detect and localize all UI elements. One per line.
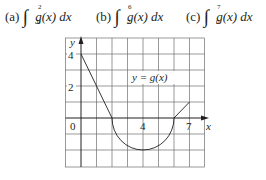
y-axis-label: y <box>69 36 75 48</box>
x-axis-label: x <box>205 120 211 132</box>
y-tick-2: 2 <box>68 81 74 93</box>
curve-label: y = g(x) <box>131 71 168 84</box>
y-axis-arrow-icon <box>79 36 84 44</box>
x-tick-0: 0 <box>70 120 76 132</box>
y-tick-4: 4 <box>68 49 74 61</box>
x-tick-4: 4 <box>140 120 146 132</box>
grid <box>66 38 205 167</box>
graph: y x 4 2 0 4 7 y = g(x) <box>0 0 266 180</box>
axes <box>66 36 210 167</box>
x-tick-7: 7 <box>186 120 192 132</box>
